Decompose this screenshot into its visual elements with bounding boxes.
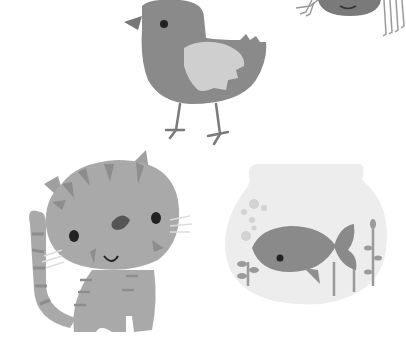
bird-figure xyxy=(124,0,266,144)
spider-figure xyxy=(296,0,404,36)
illustration-canvas xyxy=(0,0,406,356)
cat-figure xyxy=(29,150,192,332)
fishbowl-figure xyxy=(225,164,387,304)
